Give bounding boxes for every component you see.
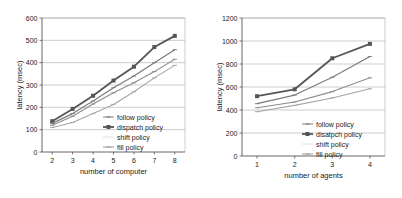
x-axis-title: number of computer [80,167,148,176]
legend-label-3: fill policy [316,151,343,159]
legend-marker [306,132,310,136]
series-marker [293,87,297,91]
y-tick-label: 200 [226,130,238,137]
x-tick-label: 5 [112,157,116,164]
y-axis-title: latency (msec) [215,62,224,111]
series-line-1 [52,36,175,121]
series-group [50,34,177,128]
y-axis-title: latency (msec) [15,60,24,109]
series-marker [255,94,259,98]
x-axis-ticks: 1234 [255,156,372,168]
latency-vs-agents-chart: 0200400600800100012001234number of agent… [201,0,402,198]
series-line-1 [257,44,370,96]
figure-container: 01002003004005006002345678number of comp… [0,0,402,198]
y-tick-label: 0 [234,153,238,160]
x-axis-ticks: 2345678 [50,152,177,164]
y-tick-label: 1000 [222,38,238,45]
y-tick-label: 0 [34,149,38,156]
y-axis-ticks: 0100200300400500600 [26,15,42,156]
legend-label-1: disatpch policy [316,131,362,139]
series-marker [91,94,95,98]
series-marker [152,45,156,49]
legend: follow policydispatch policyshift policy… [103,114,163,152]
y-tick-label: 200 [26,104,38,111]
series-group [255,42,372,112]
x-tick-label: 3 [71,157,75,164]
legend-label-2: shift policy [316,141,349,149]
latency-vs-computers-chart: 01002003004005006002345678number of comp… [0,0,201,198]
x-axis-title: number of agents [284,171,343,180]
y-tick-label: 400 [226,107,238,114]
series-marker [132,65,136,69]
series-marker [71,107,75,111]
y-tick-label: 1200 [222,15,238,22]
x-tick-label: 6 [132,157,136,164]
y-tick-label: 600 [26,15,38,22]
series-line-2 [52,50,175,124]
gridlines-group [42,18,185,130]
y-tick-label: 300 [26,82,38,89]
x-tick-label: 1 [255,161,259,168]
chart-panel-right: 0200400600800100012001234number of agent… [201,0,402,198]
legend-label-1: dispatch policy [117,124,163,132]
x-tick-label: 2 [50,157,54,164]
series-marker [330,56,334,60]
x-tick-label: 8 [173,157,177,164]
chart-panel-left: 01002003004005006002345678number of comp… [0,0,201,198]
y-tick-label: 600 [226,84,238,91]
x-tick-label: 3 [330,161,334,168]
legend-label-2: shift policy [117,134,150,142]
gridlines-group [242,18,385,133]
x-tick-label: 2 [293,161,297,168]
legend: follow policydisatpch policyshift policy… [302,121,362,159]
x-tick-label: 7 [152,157,156,164]
legend-label-0: follow policy [316,121,354,129]
series-line-0 [52,59,175,125]
legend-label-0: follow policy [117,114,155,122]
x-tick-label: 4 [91,157,95,164]
y-tick-label: 800 [226,61,238,68]
series-marker [112,79,116,83]
legend-marker [107,125,111,129]
series-marker [368,42,372,46]
y-tick-label: 100 [26,126,38,133]
y-axis-ticks: 020040060080010001200 [222,15,242,160]
y-tick-label: 400 [26,59,38,66]
y-tick-label: 500 [26,37,38,44]
series-line-3 [52,65,175,127]
legend-label-3: fill policy [117,144,144,152]
x-tick-label: 4 [368,161,372,168]
series-marker [173,34,177,38]
